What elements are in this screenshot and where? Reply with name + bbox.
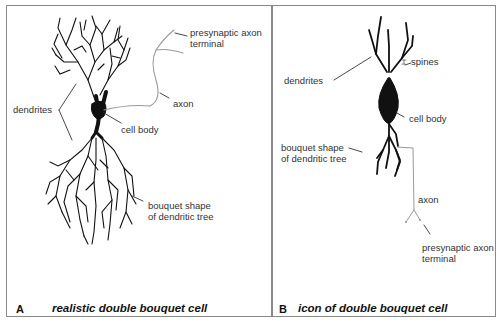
- label-axon-b: axon: [418, 194, 439, 205]
- label-presynaptic-axon-terminal-b: presynaptic axon terminal: [422, 242, 494, 264]
- panel-caption-b: icon of double bouquet cell: [298, 302, 448, 314]
- label-line: terminal: [190, 38, 262, 49]
- panel-letter-b: B: [279, 303, 287, 315]
- label-bouquet-shape-b: bouquet shape of dendritic tree: [281, 142, 346, 164]
- panel-caption-a: realistic double bouquet cell: [52, 302, 207, 314]
- label-bouquet-shape-a: bouquet shape of dendritic tree: [148, 200, 213, 222]
- label-spines-b: spines: [411, 56, 438, 67]
- label-line: terminal: [422, 253, 494, 264]
- label-line: presynaptic axon: [422, 242, 494, 253]
- label-line: presynaptic axon: [190, 27, 262, 38]
- label-line: bouquet shape: [281, 142, 346, 153]
- label-axon-a: axon: [173, 98, 194, 109]
- label-line: of dendritic tree: [281, 153, 346, 164]
- label-line: bouquet shape: [148, 200, 213, 211]
- label-cell-body-b: cell body: [409, 113, 447, 124]
- label-cell-body-a: cell body: [121, 124, 159, 135]
- icon-neuron-drawing: [334, 17, 430, 234]
- label-presynaptic-axon-terminal-a: presynaptic axon terminal: [190, 27, 262, 49]
- label-line: of dendritic tree: [148, 211, 213, 222]
- label-dendrites-b: dendrites: [284, 75, 323, 86]
- panel-letter-a: A: [16, 303, 24, 315]
- label-dendrites-a: dendrites: [13, 104, 52, 115]
